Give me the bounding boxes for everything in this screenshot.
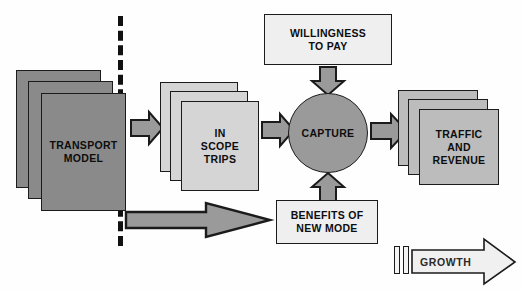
capture-label: CAPTURE [302,127,355,139]
node-willingness-to-pay[interactable]: WILLINGNESS TO PAY [264,14,392,65]
node-benefits-of-new-mode[interactable]: BENEFITS OF NEW MODE [276,200,378,244]
arrow-transport-to-inscope [130,110,164,146]
growth-bar-second [403,246,409,274]
node-in-scope-trips[interactable]: IN SCOPE TRIPS [160,82,265,194]
arrow-benefits-to-capture [310,172,346,202]
growth-bar-first [394,246,400,274]
growth-label: GROWTH [420,256,471,268]
traffic-and-revenue-label: TRAFFIC AND REVENUE [420,128,498,167]
traffic-and-revenue-card-front: TRAFFIC AND REVENUE [419,109,499,185]
benefits-of-new-mode-label: BENEFITS OF NEW MODE [291,209,364,235]
in-scope-trips-card-front: IN SCOPE TRIPS [181,101,259,191]
arrow-willingness-to-capture [310,66,346,96]
diagram-canvas: TRANSPORT MODEL IN SCOPE TRIPS WILLINGNE… [0,0,522,291]
willingness-to-pay-label: WILLINGNESS TO PAY [290,27,366,53]
transport-model-label: TRANSPORT MODEL [42,139,125,165]
in-scope-trips-label: IN SCOPE TRIPS [182,127,258,166]
node-transport-model[interactable]: TRANSPORT MODEL [16,70,126,208]
node-traffic-and-revenue[interactable]: TRAFFIC AND REVENUE [398,90,508,188]
arrow-model-to-benefits [124,200,272,240]
node-capture[interactable]: CAPTURE [288,93,368,173]
transport-model-card-front: TRANSPORT MODEL [41,93,126,211]
